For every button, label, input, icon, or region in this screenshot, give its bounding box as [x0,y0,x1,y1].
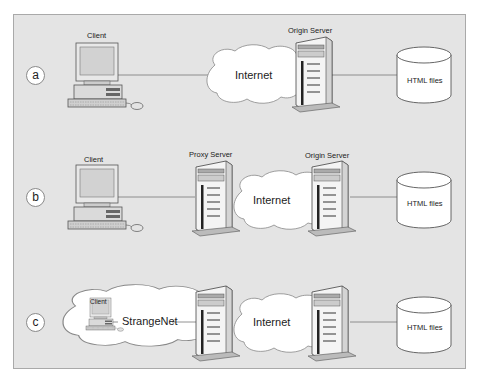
proxy-server-label: Proxy Server [189,150,232,159]
origin-server-label: Origin Server [305,151,349,160]
internet-cloud-label: Internet [253,194,290,206]
html-files-label: HTML files [407,76,443,85]
origin-server-label: Origin Server [288,26,332,35]
internet-cloud-label: Internet [253,316,290,328]
html-files-label: HTML files [407,323,443,332]
html-files-label: HTML files [407,199,443,208]
row-label-a: a [26,66,45,85]
strangenet-cloud-label: StrangeNet [122,315,178,327]
row-label-c: c [26,313,45,332]
row-label-b: b [26,188,45,207]
client-label: Client [90,298,107,305]
client-label: Client [87,31,106,40]
internet-cloud-label: Internet [235,69,272,81]
client-label: Client [84,155,103,164]
